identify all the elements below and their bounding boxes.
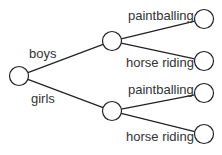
label-boys-paintballing: paintballing bbox=[128, 8, 194, 23]
tree-diagram: boyspaintballinghorse ridinggirlspaintba… bbox=[0, 0, 222, 155]
node-boys bbox=[103, 32, 122, 51]
label-boys-horse-riding: horse riding bbox=[126, 55, 194, 70]
node-boys-paintballing bbox=[195, 10, 214, 29]
node-girls-paintballing bbox=[195, 84, 214, 103]
node-girls-horse-riding bbox=[195, 125, 214, 144]
label-boys: boys bbox=[29, 46, 57, 61]
label-girls-paintballing: paintballing bbox=[128, 82, 194, 97]
label-girls: girls bbox=[31, 91, 55, 106]
node-girls bbox=[103, 102, 122, 121]
node-boys-horse-riding bbox=[195, 52, 214, 71]
labels: boyspaintballinghorse ridinggirlspaintba… bbox=[29, 8, 194, 144]
branch-boys-paintballing bbox=[121, 21, 195, 39]
nodes bbox=[10, 10, 214, 144]
label-girls-horse-riding: horse riding bbox=[126, 129, 194, 144]
root-node bbox=[10, 67, 29, 86]
